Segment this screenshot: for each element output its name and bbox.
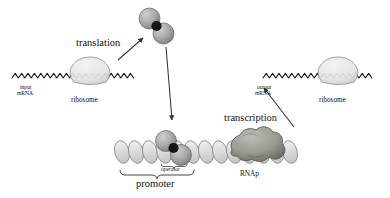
label-output-mrna-line2: mRNA: [255, 91, 271, 97]
label-operator: operator: [161, 167, 180, 173]
rnap-blob: [231, 127, 285, 162]
left-ribosome: [70, 57, 110, 85]
protein-dimer-free: [139, 8, 174, 44]
diagram-canvas: translation transcription input mRNA out…: [0, 0, 390, 198]
label-transcription: transcription: [224, 112, 277, 123]
label-input-mrna-line2: mRNA: [17, 91, 33, 97]
arrow-translation: [118, 38, 143, 60]
label-ribosome-right: ribosome: [319, 97, 346, 105]
arrow-binding: [166, 47, 172, 120]
right-ribosome: [318, 57, 358, 85]
label-rnap: RNAp: [240, 171, 259, 179]
label-promoter: promoter: [136, 178, 175, 189]
label-ribosome-left: ribosome: [71, 97, 98, 105]
label-translation: translation: [76, 37, 120, 48]
